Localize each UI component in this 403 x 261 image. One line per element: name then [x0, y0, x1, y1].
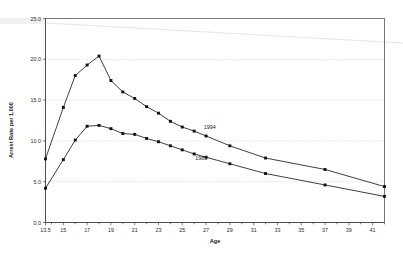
- data-point-marker: [169, 120, 172, 123]
- arrest-rate-line-chart: 0.05.010.015.020.025.0 13.51517192123252…: [0, 0, 403, 261]
- series-line-1985: [46, 125, 385, 196]
- y-tick-label: 5.0: [34, 179, 42, 185]
- y-axis: 0.05.010.015.020.025.0: [31, 16, 46, 226]
- data-point-marker: [169, 144, 172, 147]
- series-annotations: 19941985: [195, 124, 215, 161]
- x-axis: 13.51517192123252729313335373941: [40, 223, 384, 234]
- data-series-1985: [44, 124, 386, 198]
- data-point-marker: [133, 97, 136, 100]
- x-tick-label: 27: [203, 227, 209, 233]
- data-point-marker: [324, 168, 327, 171]
- y-tick-labels: 0.05.010.015.020.025.0: [31, 16, 42, 226]
- data-point-marker: [44, 187, 47, 190]
- data-point-marker: [181, 148, 184, 151]
- data-point-marker: [44, 157, 47, 160]
- x-tick-label: 23: [156, 227, 162, 233]
- x-tick-label: 17: [84, 227, 90, 233]
- y-tick-label: 25.0: [31, 16, 42, 22]
- x-axis-title: Age: [210, 238, 221, 244]
- x-tick-label: 29: [227, 227, 233, 233]
- y-tick-label: 0.0: [34, 220, 42, 226]
- data-point-marker: [264, 157, 267, 160]
- x-tick-label: 33: [274, 227, 280, 233]
- y-tick-label: 20.0: [31, 56, 42, 62]
- data-point-marker: [228, 144, 231, 147]
- x-tick-label: 41: [370, 227, 376, 233]
- x-tick-label: 35: [298, 227, 304, 233]
- x-tick-label: 25: [179, 227, 185, 233]
- x-tick-label: 39: [346, 227, 352, 233]
- data-point-marker: [193, 130, 196, 133]
- data-point-marker: [74, 139, 77, 142]
- data-point-marker: [86, 125, 89, 128]
- x-tick-label: 21: [132, 227, 138, 233]
- data-series-1994: [44, 55, 386, 188]
- y-tick-label: 15.0: [31, 97, 42, 103]
- series-annotation-1985: 1985: [195, 155, 207, 161]
- data-point-marker: [383, 185, 386, 188]
- y-tick-label: 10.0: [31, 138, 42, 144]
- x-tick-label: 15: [60, 227, 66, 233]
- data-point-marker: [121, 132, 124, 135]
- data-point-marker: [145, 137, 148, 140]
- x-tick-label: 19: [108, 227, 114, 233]
- data-point-marker: [109, 79, 112, 82]
- scan-artifacts: [0, 18, 403, 43]
- chart-container: 0.05.010.015.020.025.0 13.51517192123252…: [0, 0, 403, 261]
- data-point-marker: [157, 140, 160, 143]
- data-point-marker: [62, 158, 65, 161]
- x-tick-label: 31: [251, 227, 257, 233]
- data-point-marker: [205, 135, 208, 138]
- data-point-marker: [98, 55, 101, 58]
- scan-streak-line: [46, 23, 403, 43]
- x-tick-labels: 13.51517192123252729313335373941: [40, 227, 375, 233]
- plot-frame: [46, 19, 385, 223]
- data-point-marker: [145, 105, 148, 108]
- y-axis-title: Arrest Rate per 1,000: [8, 102, 14, 158]
- data-point-marker: [383, 195, 386, 198]
- data-point-marker: [74, 74, 77, 77]
- data-point-marker: [228, 162, 231, 165]
- data-point-marker: [98, 124, 101, 127]
- data-point-marker: [181, 126, 184, 129]
- data-point-marker: [62, 106, 65, 109]
- series-line-1994: [46, 56, 385, 187]
- x-tick-label: 37: [322, 227, 328, 233]
- data-point-marker: [133, 133, 136, 136]
- x-tick-label: 13.5: [40, 227, 51, 233]
- data-point-marker: [121, 90, 124, 93]
- data-point-marker: [157, 112, 160, 115]
- gridlines: [46, 59, 385, 181]
- data-point-marker: [109, 127, 112, 130]
- data-point-marker: [86, 64, 89, 67]
- series-annotation-1994: 1994: [204, 124, 216, 130]
- data-point-marker: [264, 172, 267, 175]
- data-point-marker: [324, 184, 327, 187]
